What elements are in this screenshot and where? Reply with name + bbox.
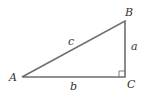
vertex-label-c: C: [127, 78, 136, 91]
side-label-a: a: [131, 40, 138, 53]
right-triangle-diagram: A B C a b c: [0, 0, 144, 96]
side-label-c: c: [68, 35, 74, 48]
side-label-b: b: [70, 80, 77, 93]
vertex-label-a: A: [8, 71, 17, 84]
vertex-label-b: B: [124, 6, 133, 19]
triangle-shape: [22, 21, 125, 77]
right-angle-marker: [119, 71, 125, 77]
